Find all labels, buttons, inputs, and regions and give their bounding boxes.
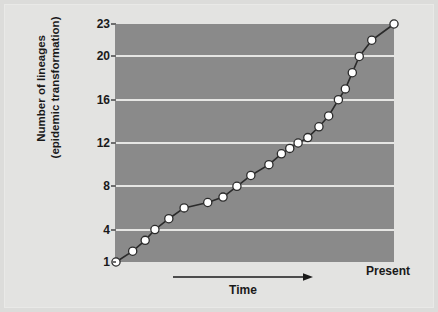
y-axis-title: Number of lineages (epidemic transformat…: [34, 18, 63, 158]
y-tick-label: 4: [103, 224, 110, 236]
data-point: [334, 96, 342, 104]
figure-root: Number of lineages (epidemic transformat…: [0, 0, 438, 312]
data-point: [286, 144, 294, 152]
data-point: [390, 20, 398, 28]
data-point: [247, 171, 255, 179]
data-point: [265, 161, 273, 169]
data-point: [294, 139, 302, 147]
plot-area: [116, 24, 394, 262]
data-point: [325, 112, 333, 120]
data-point: [348, 69, 356, 77]
y-tick-label: 16: [97, 94, 110, 106]
y-tick-label: 8: [103, 180, 110, 192]
y-tick-label: 20: [97, 50, 110, 62]
data-point: [341, 85, 349, 93]
lineage-series-svg: [116, 24, 394, 262]
y-tick-mark: [111, 142, 116, 144]
y-tick-label-group: 14812162023: [86, 24, 110, 262]
x-axis-end-label: Present: [366, 264, 410, 278]
y-tick-mark: [111, 99, 116, 101]
y-tick-label: 12: [97, 137, 110, 149]
y-tick-label: 23: [97, 18, 110, 30]
y-axis-title-line1: Number of lineages: [34, 18, 48, 158]
data-point: [355, 52, 363, 60]
x-axis-title: Time: [172, 283, 314, 297]
lineage-markers: [112, 20, 398, 266]
data-point: [165, 215, 173, 223]
y-tick-mark: [111, 23, 116, 25]
y-tick-mark: [111, 55, 116, 57]
y-tick-label: 1: [103, 256, 110, 268]
y-tick-mark: [111, 261, 116, 263]
data-point: [368, 36, 376, 44]
data-point: [151, 225, 159, 233]
data-point: [129, 247, 137, 255]
time-arrow-icon: [172, 272, 314, 282]
data-point: [219, 193, 227, 201]
data-point: [204, 198, 212, 206]
data-point: [180, 204, 188, 212]
y-axis-title-line2: (epidemic transformation): [48, 18, 62, 158]
data-point: [304, 133, 312, 141]
y-tick-mark: [111, 229, 116, 231]
data-point: [141, 236, 149, 244]
data-point: [277, 150, 285, 158]
y-tick-mark: [111, 185, 116, 187]
data-point: [233, 182, 241, 190]
data-point: [315, 123, 323, 131]
